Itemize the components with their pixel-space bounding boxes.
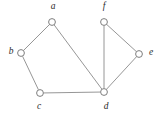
- graph-vertex-label-e: e: [149, 47, 153, 57]
- graph-vertex-label-c: c: [37, 101, 42, 111]
- graph-vertex-label-a: a: [51, 1, 56, 11]
- graph-vertex-label-d: d: [104, 101, 109, 111]
- graph-vertex-label-f: f: [103, 1, 107, 11]
- graph-edge-e-f: [107, 25, 136, 52]
- graph-vertex-a: [49, 19, 56, 26]
- edge-layer: [23, 25, 137, 93]
- label-layer: abcdef: [9, 1, 153, 111]
- graph-vertex-f: [101, 19, 108, 26]
- graph-vertex-b: [18, 50, 25, 57]
- graph-vertex-c: [37, 90, 44, 97]
- graph-figure: abcdef: [0, 0, 160, 119]
- graph-vertex-label-b: b: [9, 46, 14, 56]
- graph-edge-a-d: [54, 25, 101, 89]
- graph-edge-b-c: [23, 57, 39, 90]
- graph-canvas: abcdef: [0, 0, 160, 119]
- graph-vertex-e: [136, 51, 143, 58]
- graph-edge-a-b: [24, 25, 49, 50]
- graph-vertex-d: [101, 89, 108, 96]
- graph-edge-c-d: [44, 92, 100, 93]
- graph-edge-d-e: [107, 57, 137, 89]
